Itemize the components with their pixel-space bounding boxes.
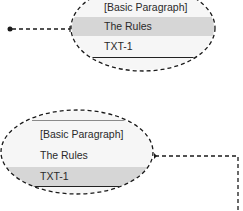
bottom-connector-arrow-icon	[154, 153, 157, 159]
top-callout-ellipse	[71, 0, 215, 71]
connector-dot-icon	[8, 27, 13, 32]
bottom-callout-ellipse	[1, 110, 153, 194]
bottom-connector-line	[155, 156, 238, 211]
callout-overlay	[0, 0, 243, 211]
